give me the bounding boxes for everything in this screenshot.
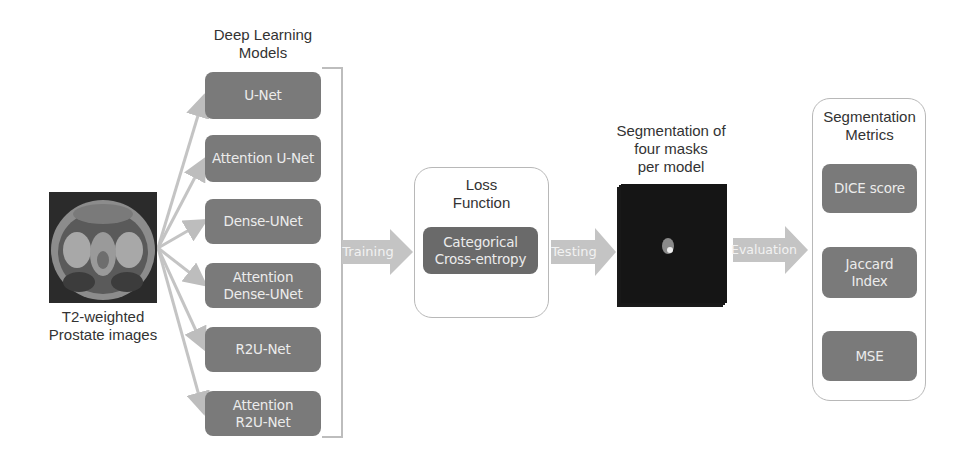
model-label: Attention U-Net xyxy=(212,150,314,167)
metrics-title-line2: Metrics xyxy=(812,126,927,144)
model-label: Attention Dense-UNet xyxy=(217,269,309,303)
metric-label: DICE score xyxy=(834,180,905,197)
input-caption-line1: T2-weighted xyxy=(30,308,176,326)
loss-title-line1: Loss xyxy=(414,176,549,194)
segmentation-title-line1: Segmentation of xyxy=(600,122,742,140)
mask-layer-front xyxy=(621,184,727,303)
evaluation-label: Evaluation xyxy=(731,242,795,257)
models-title: Deep Learning Models xyxy=(200,26,326,62)
models-title-line2: Models xyxy=(200,44,326,62)
loss-categorical-cross-entropy: Categorical Cross-entropy xyxy=(423,227,538,274)
segmentation-title-line2: four masks xyxy=(600,140,742,158)
models-bracket xyxy=(322,68,342,437)
fan-arrows xyxy=(158,99,203,410)
loss-item-line2: Cross-entropy xyxy=(435,251,527,268)
model-label: U-Net xyxy=(244,87,281,104)
segmentation-title-line3: per model xyxy=(600,158,742,176)
metric-jaccard-index: Jaccard Index xyxy=(822,247,917,298)
model-label: Dense-UNet xyxy=(223,213,302,230)
segmentation-title: Segmentation of four masks per model xyxy=(600,122,742,176)
mri-scan-image xyxy=(49,192,157,303)
metric-label: Jaccard Index xyxy=(842,256,897,290)
metric-label: MSE xyxy=(855,348,883,365)
model-box-dense-unet: Dense-UNet xyxy=(205,199,321,244)
testing-label: Testing xyxy=(551,244,597,259)
model-box-attention-u-net: Attention U-Net xyxy=(205,135,321,182)
segmentation-mask-icon xyxy=(621,184,727,303)
loss-title: Loss Function xyxy=(414,176,549,212)
models-title-line1: Deep Learning xyxy=(200,26,326,44)
metrics-title: Segmentation Metrics xyxy=(812,108,927,144)
model-label: Attention R2U-Net xyxy=(225,397,301,431)
model-box-attention-dense-unet: Attention Dense-UNet xyxy=(205,263,321,308)
loss-title-line2: Function xyxy=(414,194,549,212)
input-caption-line2: Prostate images xyxy=(30,326,176,344)
metrics-title-line1: Segmentation xyxy=(812,108,927,126)
model-box-u-net: U-Net xyxy=(205,72,321,119)
model-box-attention-r2u-net: Attention R2U-Net xyxy=(205,391,321,436)
model-box-r2u-net: R2U-Net xyxy=(205,327,321,372)
loss-item-line1: Categorical xyxy=(435,234,527,251)
model-label: R2U-Net xyxy=(235,341,290,358)
metric-mse: MSE xyxy=(822,331,917,381)
mri-icon xyxy=(49,192,157,303)
training-label: Training xyxy=(342,244,394,259)
input-caption: T2-weighted Prostate images xyxy=(30,308,176,344)
metric-dice-score: DICE score xyxy=(822,164,917,213)
